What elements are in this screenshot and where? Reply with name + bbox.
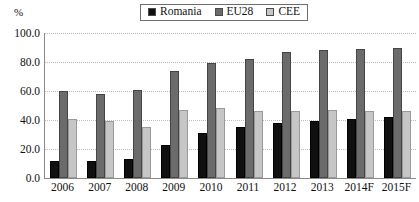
bar-group: [156, 33, 193, 178]
bar[interactable]: [216, 108, 225, 178]
bar[interactable]: [207, 63, 216, 178]
bar[interactable]: [319, 50, 328, 178]
x-tick-label: 2014F: [341, 181, 378, 193]
y-tick-label: 100.0: [0, 27, 40, 39]
legend-swatch-icon: [148, 8, 156, 16]
bar-groups: [45, 33, 416, 178]
bar-group: [305, 33, 342, 178]
bar[interactable]: [50, 161, 59, 178]
bar[interactable]: [59, 91, 68, 178]
bar[interactable]: [356, 49, 365, 178]
legend-entry[interactable]: Romania: [148, 6, 202, 18]
plot-area: [44, 33, 416, 179]
bar-group: [45, 33, 82, 178]
legend-entry[interactable]: EU28: [215, 6, 254, 18]
bar[interactable]: [124, 159, 133, 178]
bar-group: [268, 33, 305, 178]
x-tick-label: 2009: [155, 181, 192, 193]
chart-legend: RomaniaEU28CEE: [140, 4, 308, 21]
bar-group: [193, 33, 230, 178]
bar[interactable]: [105, 121, 114, 178]
bar[interactable]: [96, 94, 105, 178]
bar[interactable]: [142, 127, 151, 178]
bar[interactable]: [365, 111, 374, 178]
x-tick-label: 2011: [229, 181, 266, 193]
bar-group: [82, 33, 119, 178]
bar[interactable]: [282, 52, 291, 178]
bar[interactable]: [393, 48, 402, 179]
bar-group: [379, 33, 416, 178]
x-tick-label: 2015F: [378, 181, 415, 193]
x-tick-label: 2006: [44, 181, 81, 193]
x-tick-label: 2007: [81, 181, 118, 193]
bar[interactable]: [179, 110, 188, 178]
bar[interactable]: [161, 145, 170, 178]
bar-group: [230, 33, 267, 178]
x-tick-label: 2010: [192, 181, 229, 193]
legend-swatch-icon: [215, 8, 223, 16]
legend-swatch-icon: [266, 8, 274, 16]
y-tick-label: 0.0: [0, 172, 40, 184]
bar[interactable]: [68, 119, 77, 178]
bar[interactable]: [273, 123, 282, 178]
y-tick-label: 80.0: [0, 56, 40, 68]
bar-chart: % RomaniaEU28CEE 100.080.060.040.020.00.…: [0, 0, 419, 202]
bar[interactable]: [328, 110, 337, 178]
bar[interactable]: [245, 59, 254, 178]
bar[interactable]: [310, 121, 319, 178]
x-tick-label: 2008: [118, 181, 155, 193]
bar[interactable]: [236, 127, 245, 178]
x-tick-label: 2013: [304, 181, 341, 193]
bar[interactable]: [170, 71, 179, 178]
x-tick-label: 2012: [267, 181, 304, 193]
legend-entry[interactable]: CEE: [266, 6, 300, 18]
legend-label: EU28: [227, 6, 254, 18]
y-tick-label: 40.0: [0, 114, 40, 126]
bar-group: [119, 33, 156, 178]
bar[interactable]: [402, 111, 411, 178]
bar[interactable]: [198, 133, 207, 178]
y-tick-label: 20.0: [0, 143, 40, 155]
bar[interactable]: [133, 90, 142, 178]
bar-group: [342, 33, 379, 178]
bar[interactable]: [291, 111, 300, 178]
legend-label: Romania: [160, 6, 202, 18]
bar[interactable]: [347, 119, 356, 178]
y-axis-unit-label: %: [14, 6, 23, 18]
bar[interactable]: [87, 161, 96, 178]
bar[interactable]: [254, 111, 263, 178]
bar[interactable]: [384, 117, 393, 178]
y-tick-label: 60.0: [0, 85, 40, 97]
x-axis-tick-labels: 200620072008200920102011201220132014F201…: [44, 181, 415, 193]
legend-label: CEE: [278, 6, 300, 18]
